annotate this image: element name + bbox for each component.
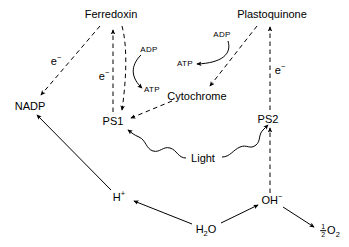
node-ferredoxin[interactable]: Ferredoxin bbox=[85, 9, 138, 20]
label-adp-ferredoxin: ADP bbox=[140, 46, 158, 54]
label-adp-cytochrome: ADP bbox=[213, 31, 231, 39]
label-electron-plastoquinone: e− bbox=[275, 65, 286, 76]
node-half-oxygen[interactable]: 12O2 bbox=[320, 223, 340, 239]
edge-ferredoxin-branch-to-ps1 bbox=[122, 26, 126, 110]
label-electron-ferredoxin: e− bbox=[99, 71, 110, 82]
diagram-canvas: Ferredoxin Plastoquinone NADP PS1 PS2 Cy… bbox=[0, 0, 349, 247]
edge-adp-to-atp-cytochrome bbox=[197, 41, 229, 64]
label-atp-ferredoxin: ATP bbox=[144, 86, 160, 94]
edge-cytochrome-to-ps1 bbox=[131, 101, 172, 118]
node-light[interactable]: Light bbox=[191, 153, 215, 164]
node-plastoquinone[interactable]: Plastoquinone bbox=[237, 9, 307, 20]
edge-water-to-ohminus bbox=[221, 205, 258, 223]
diagram-edges bbox=[0, 0, 349, 247]
edge-ohminus-to-oxygen bbox=[283, 207, 314, 227]
edge-adp-to-atp-ferredoxin bbox=[133, 55, 142, 88]
node-ps1[interactable]: PS1 bbox=[103, 116, 124, 127]
node-water[interactable]: H2O bbox=[196, 224, 217, 235]
one-half-fraction: 12 bbox=[320, 223, 326, 239]
node-ps2[interactable]: PS2 bbox=[258, 114, 279, 125]
node-oh-minus[interactable]: OH− bbox=[262, 195, 283, 206]
node-nadp[interactable]: NADP bbox=[15, 101, 46, 112]
node-h-plus[interactable]: H+ bbox=[113, 192, 125, 203]
edge-light-to-ps1 bbox=[128, 130, 186, 158]
edge-hplus-to-nadp bbox=[37, 115, 111, 190]
edge-water-to-hplus bbox=[134, 201, 192, 224]
label-electron-nadp: e− bbox=[51, 56, 62, 67]
node-cytochrome[interactable]: Cytochrome bbox=[167, 91, 226, 102]
label-atp-cytochrome: ATP bbox=[177, 60, 193, 68]
edge-light-to-ps2 bbox=[222, 125, 268, 157]
